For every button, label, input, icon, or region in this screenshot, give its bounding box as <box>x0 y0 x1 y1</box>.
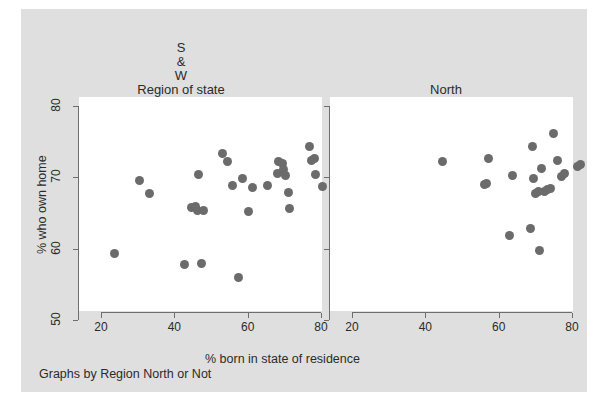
y-tick-label-80: 80 <box>49 90 63 120</box>
data-point <box>535 246 544 255</box>
y-tick-north-80 <box>324 106 329 107</box>
panel-title-line: S & W Region of state <box>56 41 306 97</box>
y-tick-sw-60 <box>73 249 78 250</box>
figure-canvas: S & W Region of state North Region of st… <box>21 9 587 392</box>
data-point <box>311 170 320 179</box>
data-point <box>560 169 569 178</box>
data-point <box>238 174 247 183</box>
x-tick-label-sw-80: 80 <box>306 320 336 334</box>
y-tick-label-70: 70 <box>49 161 63 191</box>
data-point <box>576 160 585 169</box>
x-tick-label-north-40: 40 <box>410 320 440 334</box>
data-point <box>180 260 189 269</box>
y-tick-label-60: 60 <box>49 233 63 263</box>
x-tick-north-80 <box>572 313 573 318</box>
data-point <box>508 171 517 180</box>
x-tick-north-60 <box>499 313 500 318</box>
data-point <box>135 176 144 185</box>
x-tick-north-20 <box>352 313 353 318</box>
scatter-panel-north <box>330 97 573 311</box>
data-point <box>438 157 447 166</box>
data-point <box>482 179 491 188</box>
data-point <box>244 207 253 216</box>
data-point <box>528 142 537 151</box>
x-tick-north-40 <box>425 313 426 318</box>
y-tick-sw-70 <box>73 177 78 178</box>
data-point <box>248 183 257 192</box>
data-point <box>228 181 237 190</box>
x-axis-label: % born in state of residence <box>205 352 360 366</box>
data-point <box>537 164 546 173</box>
y-axis-label: % who own home <box>35 155 49 254</box>
x-tick-label-north-20: 20 <box>337 320 367 334</box>
data-point <box>318 182 327 191</box>
y-axis-line-north <box>329 106 330 320</box>
data-point <box>553 156 562 165</box>
data-point <box>281 171 290 180</box>
data-point <box>199 206 208 215</box>
data-point <box>484 154 493 163</box>
data-point <box>234 273 243 282</box>
data-point <box>284 188 293 197</box>
data-point <box>223 157 232 166</box>
data-point <box>197 259 206 268</box>
x-axis-line-sw <box>101 312 321 313</box>
x-tick-label-north-80: 80 <box>557 320 587 334</box>
data-point <box>194 170 203 179</box>
figure-caption: Graphs by Region North or Not <box>39 367 211 381</box>
data-point <box>285 204 294 213</box>
y-tick-sw-80 <box>73 106 78 107</box>
x-tick-label-sw-20: 20 <box>86 320 116 334</box>
x-tick-sw-20 <box>101 313 102 318</box>
data-point <box>263 181 272 190</box>
data-point <box>549 129 558 138</box>
y-tick-north-60 <box>324 249 329 250</box>
y-tick-sw-50 <box>73 320 78 321</box>
data-point <box>145 189 154 198</box>
x-tick-label-sw-60: 60 <box>233 320 263 334</box>
data-point <box>529 174 538 183</box>
x-axis-line-north <box>352 312 572 313</box>
data-point <box>310 154 319 163</box>
data-point <box>305 142 314 151</box>
x-tick-sw-80 <box>321 313 322 318</box>
y-axis-line-sw <box>78 106 79 320</box>
data-point <box>546 184 555 193</box>
x-tick-sw-60 <box>248 313 249 318</box>
data-point <box>505 231 514 240</box>
x-tick-label-north-60: 60 <box>484 320 514 334</box>
x-tick-sw-40 <box>174 313 175 318</box>
data-point <box>110 249 119 258</box>
y-tick-label-50: 50 <box>49 304 63 334</box>
scatter-panel-sw <box>79 97 322 311</box>
y-tick-north-70 <box>324 177 329 178</box>
x-tick-label-sw-40: 40 <box>159 320 189 334</box>
y-tick-north-50 <box>324 320 329 321</box>
data-point <box>526 224 535 233</box>
